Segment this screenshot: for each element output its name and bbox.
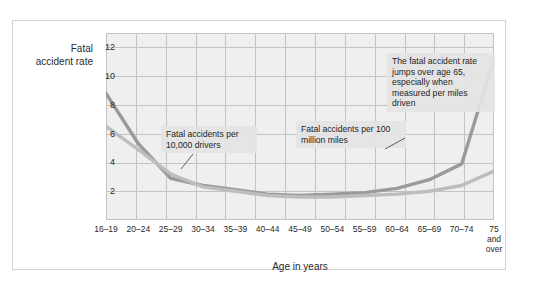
x-axis-ticks: 16–1920–2425–2930–3435–3940–4445–4950–54… xyxy=(106,224,494,258)
y-axis-title: Fatal accident rate xyxy=(31,43,93,68)
x-axis-title: Age in years xyxy=(106,261,494,272)
y-axis-tick-label: 10 xyxy=(85,71,115,81)
y-axis-tick-label: 12 xyxy=(85,42,115,52)
chart-figure: Fatal accident rate 24681012 16–1920–242… xyxy=(12,20,506,270)
y-axis-tick-label: 6 xyxy=(85,129,115,139)
y-axis-tick-label: 8 xyxy=(85,100,115,110)
annotation-per-10000-drivers: Fatal accidents per 10,000 drivers xyxy=(161,126,257,153)
annotation-rate-jumps-over-65: The fatal accident rate jumps over age 6… xyxy=(387,53,495,112)
x-axis-tick-label: 75 and over xyxy=(474,224,514,254)
y-axis-tick-label: 4 xyxy=(85,157,115,167)
annotation-per-100-million-miles: Fatal accidents per 100 million miles xyxy=(296,121,406,148)
y-axis-tick-label: 2 xyxy=(85,186,115,196)
